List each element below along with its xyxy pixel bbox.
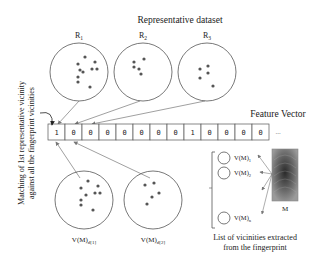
feature-vector-value: 0 xyxy=(122,129,126,137)
vicinity-list-caption-2: from the fingerprint xyxy=(223,243,287,252)
feature-vector-cell: 0 xyxy=(82,124,99,140)
link-m-v1 xyxy=(258,155,272,174)
feature-vector-value: 0 xyxy=(88,129,92,137)
svg-text:V(M)n: V(M)n xyxy=(234,214,252,223)
feature-vector-value: 1 xyxy=(190,129,194,137)
feature-vector-cell: 0 xyxy=(65,124,82,140)
svg-text:V(M)1: V(M)1 xyxy=(234,154,251,163)
representative-circle-1 xyxy=(50,43,108,101)
fingerprint-label: M xyxy=(282,205,289,213)
matched-vicinity-circle-2 xyxy=(124,171,182,229)
fingerprint-image xyxy=(272,149,298,201)
feature-vector-cell: 0 xyxy=(201,124,218,140)
svg-text:R2: R2 xyxy=(139,31,147,41)
matched-vicinity-label-2: V(M)d[2] xyxy=(141,236,166,245)
svg-text:V(M)2: V(M)2 xyxy=(234,169,251,178)
feature-vector-cell: 1 xyxy=(184,124,201,140)
feature-vector-cell: 0 xyxy=(252,124,269,140)
feature-vector: 1000000010000 xyxy=(48,124,269,140)
feature-vector-value: 0 xyxy=(224,129,228,137)
link-m-vn xyxy=(262,174,272,214)
feature-vector-value: 0 xyxy=(258,129,262,137)
representative-circle-3 xyxy=(178,43,236,101)
vicinity-list-caption-1: List of vicinities extracted xyxy=(213,233,297,242)
feature-vector-value: 0 xyxy=(105,129,109,137)
feature-vector-cell: 0 xyxy=(116,124,133,140)
vicinity-list-item-2: V(M)2 xyxy=(218,167,251,179)
svg-text:Matching of 1st representative: Matching of 1st representative vicinity xyxy=(17,81,26,205)
matching-arrow xyxy=(40,113,52,126)
svg-text:R1: R1 xyxy=(75,31,83,41)
vicinity-list-bracket xyxy=(212,152,215,228)
link-r1-cell1 xyxy=(58,101,79,124)
feature-vector-label: Feature Vector xyxy=(250,109,306,119)
svg-text:V(M)d[1]: V(M)d[1] xyxy=(72,236,97,245)
feature-vector-value: 0 xyxy=(173,129,177,137)
feature-vector-value: 0 xyxy=(139,129,143,137)
feature-vector-value: 0 xyxy=(207,129,211,137)
link-vd1-cell1 xyxy=(56,142,80,178)
feature-vector-cell: 0 xyxy=(218,124,235,140)
feature-vector-cell: 0 xyxy=(150,124,167,140)
feature-vector-ellipsis: ... xyxy=(275,128,281,136)
feature-vector-cell: 0 xyxy=(99,124,116,140)
matched-vicinity-circle-1 xyxy=(55,171,113,229)
feature-vector-cell: 1 xyxy=(48,124,65,140)
feature-vector-value: 0 xyxy=(156,129,160,137)
dataset-title: Representative dataset xyxy=(137,15,223,25)
representative-label-2: R2 xyxy=(139,31,147,41)
feature-vector-value: 1 xyxy=(54,129,58,137)
link-r3-cell3 xyxy=(92,101,205,124)
link-m-v2 xyxy=(260,172,272,174)
representative-label-3: R3 xyxy=(203,31,211,41)
feature-vector-cell: 0 xyxy=(167,124,184,140)
svg-text:V(M)d[2]: V(M)d[2] xyxy=(141,236,166,245)
representative-circle-2 xyxy=(114,43,172,101)
matched-vicinity-label-1: V(M)d[1] xyxy=(72,236,97,245)
link-vd2-cell1 xyxy=(74,142,150,178)
svg-text:R3: R3 xyxy=(203,31,211,41)
matching-side-label: Matching of 1st representative vicinity … xyxy=(17,81,36,205)
representative-label-1: R1 xyxy=(75,31,83,41)
feature-vector-cell: 0 xyxy=(133,124,150,140)
feature-vector-value: 0 xyxy=(241,129,245,137)
feature-vector-value: 0 xyxy=(71,129,75,137)
link-m-v3 xyxy=(262,174,272,190)
vicinity-list-item-n: V(M)n xyxy=(218,212,252,224)
vicinity-list-item-1: V(M)1 xyxy=(218,152,251,164)
svg-text:against all the fingerprint vi: against all the fingerprint vicinities xyxy=(27,87,36,199)
diagram-canvas: Representative dataset R1 R2 R3 xyxy=(0,0,312,270)
feature-vector-cell: 0 xyxy=(235,124,252,140)
